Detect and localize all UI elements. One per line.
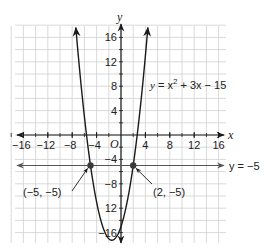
line-equation-label: y = −5 bbox=[229, 160, 260, 172]
tick-labels: −16−12−8−4481216161284−4−812−16Oxy bbox=[12, 10, 234, 239]
x-tick-label: 8 bbox=[167, 139, 173, 151]
x-tick-label: −4 bbox=[88, 139, 101, 151]
graph-figure: −16−12−8−4481216161284−4−812−16Oxy y = x… bbox=[0, 0, 269, 248]
x-tick-label: −8 bbox=[64, 139, 77, 151]
x-tick-label: 4 bbox=[142, 139, 148, 151]
y-tick-label: 8 bbox=[111, 80, 117, 92]
intersection-point bbox=[87, 162, 93, 168]
axes bbox=[11, 24, 224, 243]
y-tick-label: −4 bbox=[104, 153, 117, 165]
x-tick-label: −12 bbox=[36, 139, 55, 151]
y-tick-label: −16 bbox=[98, 227, 117, 239]
parabola-equation-label: y = x2 + 3x − 15 bbox=[149, 77, 226, 91]
intersection-point bbox=[130, 162, 136, 168]
x-axis-label: x bbox=[227, 128, 234, 142]
coordinate-plane: −16−12−8−4481216161284−4−812−16Oxy y = x… bbox=[0, 0, 269, 248]
y-tick-label: 12 bbox=[105, 56, 117, 68]
y-tick-label: 4 bbox=[111, 105, 117, 117]
x-tick-label: −16 bbox=[12, 139, 31, 151]
y-tick-label: 12 bbox=[105, 202, 117, 214]
y-axis-label: y bbox=[116, 10, 123, 24]
x-tick-label: 16 bbox=[212, 139, 224, 151]
x-tick-label: 12 bbox=[188, 139, 200, 151]
point-label-left: (−5, −5) bbox=[23, 186, 62, 198]
point-label-right: (2, −5) bbox=[153, 186, 185, 198]
y-tick-label: −8 bbox=[104, 178, 117, 190]
pointer-arrow-right bbox=[136, 169, 152, 185]
y-tick-label: 16 bbox=[105, 31, 117, 43]
origin-label: O bbox=[110, 137, 119, 151]
